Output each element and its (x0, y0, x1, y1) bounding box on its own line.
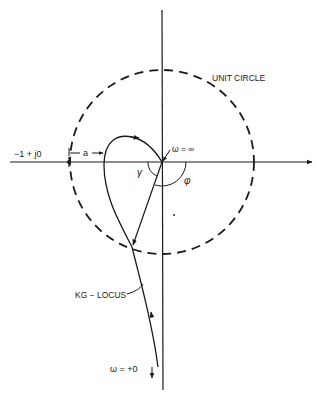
kg-locus-label: KG − LOCUS (75, 290, 127, 300)
omega-inf-label: ω = ∞ (172, 144, 194, 154)
locus-direction-arrow-lower (151, 312, 152, 318)
stray-dot (173, 214, 175, 216)
gamma-angle-arc (148, 162, 157, 176)
kg-locus-curve (104, 136, 162, 367)
unit-circle-label: UNIT CIRCLE (212, 73, 266, 83)
nyquist-diagram: UNIT CIRCLE −1 + j0 a ω = ∞ γ φ KG − LOC… (0, 0, 317, 397)
phi-angle-arc (155, 162, 186, 186)
omega-inf-pointer (163, 150, 170, 161)
critical-point-label: −1 + j0 (14, 149, 42, 159)
locus-direction-arrow-top (131, 137, 139, 138)
locus-label-leader (127, 284, 143, 294)
gamma-label: γ (137, 167, 143, 178)
imaginary-axis (162, 10, 163, 390)
omega-zero-label: ω = +0 (110, 364, 138, 374)
phi-label: φ (184, 175, 191, 186)
gain-margin-label: a (83, 148, 88, 158)
